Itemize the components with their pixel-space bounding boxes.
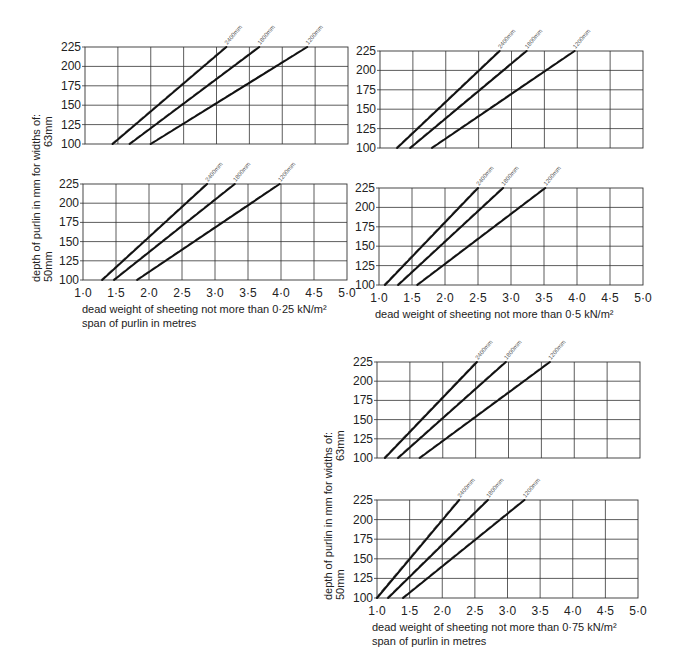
series-label: 1200mm [547, 339, 567, 361]
x-tick-label: 2·5 [173, 286, 191, 300]
y-tick-label: 200 [356, 63, 376, 77]
series-label: 1800mm [524, 28, 544, 50]
series-1800mm: 1800mm [409, 28, 544, 148]
series-label: 2400mm [456, 477, 476, 499]
series-label: 1200mm [277, 161, 297, 183]
y-tick-label: 150 [356, 102, 376, 116]
x-tick-label: 2·5 [469, 291, 487, 305]
y-axis-50mm-bottom: 50mm [334, 569, 346, 600]
x-tick-label: 3·5 [239, 286, 257, 300]
series-label: 1800mm [232, 161, 252, 183]
caption-load-025: dead weight of sheeting not more than 0·… [82, 303, 327, 315]
x-tick-label: 2·0 [436, 291, 454, 305]
y-axis-63mm-left: 63mm [42, 116, 54, 147]
x-tick-label: 3·5 [535, 291, 553, 305]
y-axis-title-left-group: depth of purlin in mm for widths of: 63m… [30, 114, 54, 282]
x-tick-label: 3·5 [531, 604, 549, 618]
series-label: 1200mm [572, 28, 592, 50]
y-tick-label: 150 [59, 235, 79, 249]
series-label: 1800mm [485, 477, 505, 499]
chart-075-50mm: 2252001751501251001·01·52·02·53·03·54·04… [353, 477, 647, 618]
series-label: 2400mm [497, 28, 517, 50]
y-tick-label: 225 [353, 493, 373, 507]
y-tick-label: 225 [356, 44, 376, 58]
y-tick-label: 150 [353, 413, 373, 427]
series-label: 2400mm [224, 24, 244, 46]
y-tick-label: 125 [355, 259, 375, 273]
purlin-span-charts: 2252001751501251002400mm1800mm1200mm2252… [0, 0, 682, 672]
x-tick-label: 5·0 [338, 286, 356, 300]
series-1200mm: 1200mm [430, 28, 591, 148]
y-tick-label: 225 [61, 40, 81, 54]
x-axis-title-bottom: span of purlin in metres [372, 635, 487, 647]
x-tick-label: 1·0 [370, 291, 388, 305]
x-tick-label: 2·0 [140, 286, 158, 300]
x-tick-label: 5·0 [634, 291, 652, 305]
x-tick-label: 4·5 [601, 291, 619, 305]
y-tick-label: 200 [353, 513, 373, 527]
series-1200mm: 1200mm [402, 477, 542, 598]
chart-025-63mm: 2252001751501251002400mm1800mm1200mm [61, 24, 348, 151]
x-tick-label: 4·5 [597, 604, 615, 618]
grid [380, 51, 643, 148]
chart-05-63mm: 2252001751501251002400mm1800mm1200mm [356, 28, 643, 155]
x-tick-label: 2·5 [466, 604, 484, 618]
y-tick-label: 175 [356, 83, 376, 97]
series-1800mm: 1800mm [397, 339, 523, 458]
x-tick-label: 1·5 [107, 286, 125, 300]
y-tick-label: 150 [353, 552, 373, 566]
grid [85, 47, 348, 144]
grid [379, 188, 643, 285]
x-tick-label: 1·5 [401, 604, 419, 618]
series-label: 2400mm [204, 161, 224, 183]
y-tick-label: 175 [353, 532, 373, 546]
y-tick-label: 150 [355, 239, 375, 253]
y-tick-label: 100 [59, 273, 79, 287]
y-tick-label: 100 [355, 278, 375, 292]
x-tick-label: 5·0 [629, 604, 647, 618]
x-tick-label: 3·0 [206, 286, 224, 300]
y-tick-label: 175 [355, 220, 375, 234]
series-label: 1200mm [542, 165, 562, 187]
series-1800mm: 1800mm [397, 165, 520, 285]
x-tick-label: 3·0 [499, 604, 517, 618]
series-label: 1800mm [500, 165, 520, 187]
x-tick-label: 1·0 [74, 286, 92, 300]
y-tick-label: 225 [353, 355, 373, 369]
y-tick-label: 175 [61, 79, 81, 93]
x-tick-label: 4·0 [564, 604, 582, 618]
y-axis-title-left: depth of purlin in mm for widths of: [30, 114, 42, 282]
series-label: 1800mm [256, 24, 276, 46]
x-tick-label: 2·0 [434, 604, 452, 618]
y-tick-label: 125 [353, 432, 373, 446]
y-tick-label: 225 [59, 177, 79, 191]
x-tick-label: 4·0 [568, 291, 586, 305]
y-axis-50mm-left: 50mm [42, 251, 54, 282]
y-tick-label: 125 [353, 571, 373, 585]
chart-075-63mm: 2252001751501251002400mm1800mm1200mm [353, 339, 640, 465]
series-label: 2400mm [475, 165, 495, 187]
series-label: 1800mm [503, 339, 523, 361]
series-1200mm: 1200mm [136, 161, 297, 280]
series-1200mm: 1200mm [416, 165, 562, 285]
x-tick-label: 1·5 [403, 291, 421, 305]
y-tick-label: 200 [355, 200, 375, 214]
y-tick-label: 125 [59, 254, 79, 268]
y-tick-label: 200 [59, 196, 79, 210]
series-2400mm: 2400mm [111, 24, 243, 144]
grid [377, 362, 640, 458]
y-tick-label: 100 [353, 451, 373, 465]
series-label: 1200mm [304, 24, 324, 46]
y-tick-label: 200 [353, 374, 373, 388]
y-axis-63mm-bottom: 63mm [334, 430, 346, 461]
series-label: 1200mm [522, 477, 542, 499]
series-2400mm: 2400mm [383, 339, 493, 458]
x-tick-label: 1·0 [368, 604, 386, 618]
y-tick-label: 225 [355, 181, 375, 195]
series-1800mm: 1800mm [387, 477, 505, 598]
y-axis-title-bottom: depth of purlin in mm for widths of: [322, 432, 334, 600]
y-tick-label: 175 [59, 215, 79, 229]
x-tick-label: 4·0 [272, 286, 290, 300]
y-tick-label: 200 [61, 59, 81, 73]
caption-load-05: dead weight of sheeting not more than 0·… [375, 308, 614, 320]
